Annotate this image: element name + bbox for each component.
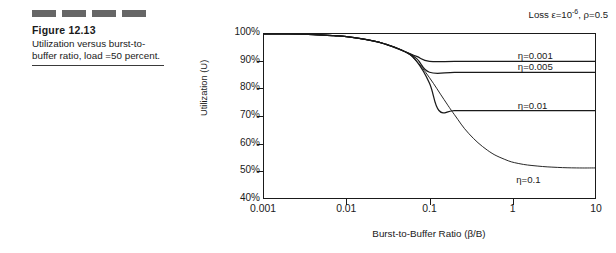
figure-caption-block: Figure 12.13 Utilization versus burst-to… [32, 10, 164, 66]
y-tick-label: 80% [220, 81, 260, 92]
figure-number-title: Figure 12.13 [32, 24, 164, 36]
decorative-dash-row [32, 10, 164, 17]
y-tick-label: 60% [220, 137, 260, 148]
curve-label: η=0.1 [516, 174, 540, 185]
y-tick-label: 40% [220, 192, 260, 203]
annotation-prefix: Loss ε=10 [529, 9, 572, 20]
x-tick-mark [430, 199, 431, 205]
x-tick-mark [513, 199, 514, 205]
caption-divider [32, 65, 164, 66]
y-tick-label: 100% [220, 26, 260, 37]
figure-caption-text: Utilization versus burst-to-buffer ratio… [32, 38, 164, 63]
decorative-dash [62, 10, 86, 17]
x-tick-label: 0.001 [250, 203, 276, 214]
x-axis-title: Burst-to-Buffer Ratio (β/B) [372, 228, 485, 239]
decorative-dash [32, 10, 56, 17]
curve-label: η=0.005 [518, 61, 553, 72]
y-tick-label: 70% [220, 109, 260, 120]
curve-label: η=0.01 [518, 100, 548, 111]
curve-label: η=0.001 [518, 50, 553, 61]
decorative-dash [92, 10, 116, 17]
utilization-chart: Loss ε=10-6, ρ=0.5 Utilization (U) 40%50… [196, 4, 612, 250]
x-tick-label: 10 [590, 203, 602, 214]
decorative-dash [122, 10, 146, 17]
y-tick-label: 90% [220, 54, 260, 65]
x-tick-mark [346, 199, 347, 205]
y-axis-title: Utilization (U) [198, 60, 209, 116]
chart-parameter-annotation: Loss ε=10-6, ρ=0.5 [529, 8, 608, 20]
y-tick-label: 50% [220, 164, 260, 175]
annotation-suffix: , ρ=0.5 [578, 9, 608, 20]
